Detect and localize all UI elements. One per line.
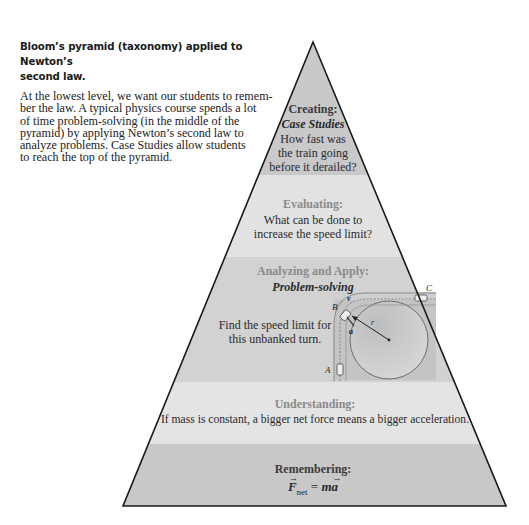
point-label-b: B — [332, 302, 338, 312]
tier-text-line: If mass is constant, a bigger net force … — [120, 413, 510, 427]
car-a-icon — [337, 364, 343, 375]
tier-evaluating: Evaluating: What can be done to increase… — [233, 195, 393, 241]
newton-second-law-formula: Fnet = ma — [253, 479, 373, 500]
mass-symbol: m — [321, 479, 331, 494]
tier-level-label: Creating: — [263, 102, 363, 116]
tier-level-label: Remembering: — [253, 461, 373, 477]
tier-level-label: Evaluating: — [233, 195, 393, 213]
tier-subtitle: Problem-solving — [213, 279, 413, 295]
tier-remembering: Remembering: Fnet = ma — [253, 461, 373, 500]
subscript-net: net — [297, 487, 308, 497]
tier-understanding: Understanding: If mass is constant, a bi… — [120, 395, 510, 427]
tier-subtitle: Case Studies — [263, 116, 363, 132]
equals-sign: = — [311, 479, 318, 494]
tier-text-line: increase the speed limit? — [233, 227, 393, 241]
tier-analyzing: Analyzing and Apply: Problem-solving — [213, 263, 413, 295]
tier-text-line: How fast was — [263, 132, 363, 146]
tier-level-label: Understanding: — [120, 395, 510, 413]
tier-text-line: this unbanked turn. — [215, 332, 335, 346]
point-label-a: A — [324, 365, 331, 375]
tier-analyzing-question: Find the speed limit for this unbanked t… — [215, 318, 335, 346]
tier-text-line: before it derailed? — [263, 160, 363, 174]
tier-text-line: the train going — [263, 146, 363, 160]
tier-text-line: Find the speed limit for — [215, 318, 335, 332]
vector-a: a — [332, 479, 339, 495]
tier-text-line: What can be done to — [233, 213, 393, 227]
tier-level-label: Analyzing and Apply: — [213, 263, 413, 279]
point-label-c: C — [426, 283, 433, 293]
vector-label-v: v — [347, 294, 351, 303]
vector-label-a: a — [349, 327, 353, 336]
tier-creating: Creating: Case Studies How fast was the … — [263, 102, 363, 174]
vector-f: F — [288, 479, 297, 495]
